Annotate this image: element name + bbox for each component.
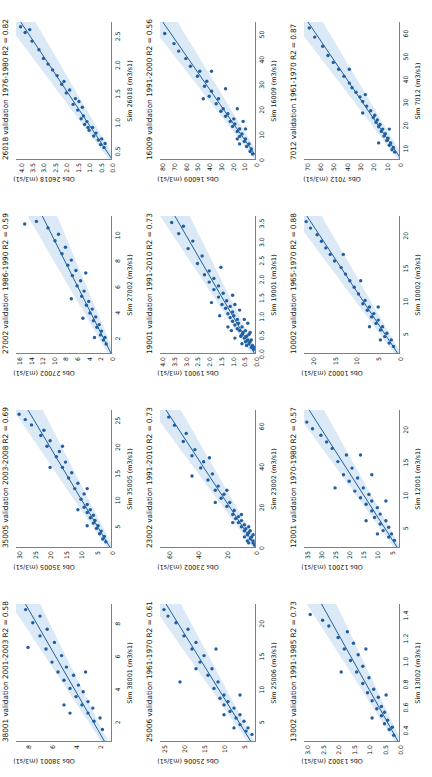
y-tick-label: 20 — [309, 357, 316, 378]
x-tick-label: 10 — [402, 145, 409, 153]
x-axis-label: Sim 12001 (m3/s1) — [414, 410, 422, 548]
panel-title: 38001 validation 2001-2003 R2 = 0.58 — [1, 592, 10, 742]
y-tick-label: 5 — [241, 745, 248, 766]
x-tick-label: 30 — [402, 99, 409, 107]
y-tick-label: 2.0 — [335, 745, 342, 766]
y-tick-label: 35 — [303, 551, 310, 572]
scatter-svg — [16, 216, 112, 353]
y-tick-label: 0.0 — [397, 745, 404, 766]
panel-canvas: 12001 validation 1970-1980 R2 = 0.57Obs … — [288, 388, 432, 582]
plot-area — [160, 410, 256, 548]
y-tick-label: 2.5 — [194, 357, 201, 378]
y-tick-label: 2.5 — [319, 745, 326, 766]
x-tick-label: 2 — [114, 720, 121, 724]
scatter-panel: 27002 validation 1986-1990 R2 = 0.59Obs … — [0, 194, 144, 388]
y-tick-label: 4 — [73, 745, 80, 766]
y-tick-label: 4.0 — [159, 357, 166, 378]
x-tick-label: 20 — [258, 106, 265, 114]
scatter-panel: 13002 validation 1991-1985 R2 = 0.73Obs … — [288, 582, 432, 776]
x-axis-label: Sim 13002 (m3/s1) — [414, 604, 422, 742]
x-axis-label: Sim 23002 (m3/s1) — [270, 410, 278, 548]
y-tick-label: 30 — [317, 551, 324, 572]
y-tick-label: 2.0 — [63, 163, 70, 184]
scatter-svg — [160, 410, 256, 547]
x-tick-label: 30 — [258, 81, 265, 89]
panel-canvas: 38001 validation 2001-2003 R2 = 0.58Obs … — [0, 582, 144, 776]
figure-grid: 26018 validation 1976-1980 R2 = 0.82Obs … — [0, 0, 432, 777]
x-tick-label: 20 — [258, 620, 265, 628]
scatter-panel: 38001 validation 2001-2003 R2 = 0.58Obs … — [0, 582, 144, 776]
y-tick-label: 20 — [346, 551, 353, 572]
y-tick-label: 2.0 — [206, 357, 213, 378]
panel-canvas: 7012 validation 1961-1970 R2 = 0.87Obs 7… — [288, 0, 432, 194]
scatter-panel: 26018 validation 1976-1980 R2 = 0.82Obs … — [0, 0, 144, 194]
x-tick-label: 50 — [258, 31, 265, 39]
y-tick-label: 6 — [74, 357, 81, 378]
scatter-svg — [304, 22, 400, 159]
x-tick-label: 1.0 — [402, 657, 409, 667]
panel-canvas: 19001 validation 1991-2010 R2 = 0.73Obs … — [144, 194, 288, 388]
y-tick-label: 10 — [78, 551, 85, 572]
x-axis-label: Sim 16009 (m3/s1) — [270, 22, 278, 160]
x-tick-label: 20 — [114, 443, 121, 451]
panel-title: 27002 validation 1986-1990 R2 = 0.59 — [1, 204, 10, 354]
x-axis-label: Sim 27002 (m3/s1) — [126, 216, 134, 354]
y-tick-label: 3.0 — [40, 163, 47, 184]
y-tick-label: 5 — [388, 551, 395, 572]
x-tick-label: 10 — [258, 131, 265, 139]
y-tick-label: 30 — [16, 551, 23, 572]
x-tick-label: 60 — [258, 422, 265, 430]
y-tick-label: 60 — [182, 163, 189, 184]
y-tick-label: 8 — [25, 745, 32, 766]
y-tick-label: 15 — [201, 745, 208, 766]
x-tick-label: 3.5 — [258, 219, 265, 229]
x-tick-label: 4 — [114, 687, 121, 691]
x-tick-label: 5 — [402, 332, 409, 336]
x-tick-label: 60 — [402, 30, 409, 38]
y-tick-label: 2 — [97, 357, 104, 378]
panel-canvas: 16009 validation 1991-2000 R2 = 0.56Obs … — [144, 0, 288, 194]
y-tick-label: 1.5 — [74, 163, 81, 184]
x-tick-label: 25 — [114, 417, 121, 425]
y-tick-label: 40 — [206, 163, 213, 184]
y-tick-label: 0.5 — [381, 745, 388, 766]
y-tick-label: 3.0 — [304, 745, 311, 766]
panel-canvas: 27002 validation 1986-1990 R2 = 0.59Obs … — [0, 194, 144, 388]
x-tick-label: 15 — [114, 470, 121, 478]
x-tick-label: 8 — [114, 622, 121, 626]
panel-canvas: 23002 validation 1991-2010 R2 = 0.73Obs … — [144, 388, 288, 582]
x-tick-label: 0 — [258, 158, 265, 162]
x-tick-label: 1.4 — [402, 611, 409, 621]
x-axis-label: Sim 7012 (m3/s1) — [414, 22, 422, 160]
x-tick-label: 1.5 — [114, 89, 121, 99]
scatter-panel: 7012 validation 1961-1970 R2 = 0.87Obs 7… — [288, 0, 432, 194]
scatter-svg — [304, 604, 400, 741]
y-tick-label: 0.5 — [97, 163, 104, 184]
x-tick-label: 3.0 — [258, 237, 265, 247]
y-tick-label: 3.5 — [29, 163, 36, 184]
y-tick-label: 20 — [181, 745, 188, 766]
y-tick-label: 4 — [85, 357, 92, 378]
y-tick-label: 1.0 — [229, 357, 236, 378]
y-tick-label: 20 — [47, 551, 54, 572]
scatter-panel: 10002 validation 1965-1970 R2 = 0.88Obs … — [288, 194, 432, 388]
x-tick-label: 0.4 — [402, 726, 409, 736]
x-tick-label: 10 — [114, 231, 121, 239]
y-tick-label: 25 — [31, 551, 38, 572]
panel-title: 19001 validation 1991-2010 R2 = 0.73 — [145, 204, 154, 354]
y-tick-label: 25 — [332, 551, 339, 572]
plot-area — [304, 216, 400, 354]
y-tick-label: 10 — [50, 357, 57, 378]
panel-canvas: 25006 validation 1961-1970 R2 = 0.61Obs … — [144, 582, 288, 776]
scatter-panel: 19001 validation 1991-2010 R2 = 0.73Obs … — [144, 194, 288, 388]
scatter-panel: 23002 validation 1991-2010 R2 = 0.73Obs … — [144, 388, 288, 582]
y-tick-label: 0 — [253, 163, 260, 184]
panel-title: 16009 validation 1991-2000 R2 = 0.56 — [145, 10, 154, 160]
y-tick-label: 1.0 — [86, 163, 93, 184]
y-tick-label: 6 — [49, 745, 56, 766]
x-tick-label: 0.8 — [402, 680, 409, 690]
panel-title: 7012 validation 1961-1970 R2 = 0.87 — [289, 10, 298, 160]
y-tick-label: 5 — [375, 357, 382, 378]
x-tick-label: 20 — [402, 232, 409, 240]
y-tick-label: 10 — [353, 357, 360, 378]
